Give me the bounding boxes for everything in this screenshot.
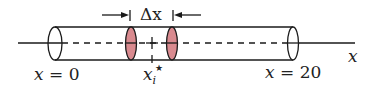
left-end-label: x = 0 (34, 64, 79, 84)
axis-label: x (348, 46, 358, 66)
arrow-right-icon (121, 12, 129, 18)
right-end-label: x = 20 (265, 62, 321, 82)
delta-x-label: Δx (140, 4, 162, 24)
cylinder-slice-diagram: Δx x = 0 xi★ x = 20 x (0, 0, 384, 89)
sample-point-label: xi★ (143, 63, 163, 87)
sample-point-marker (146, 37, 158, 63)
